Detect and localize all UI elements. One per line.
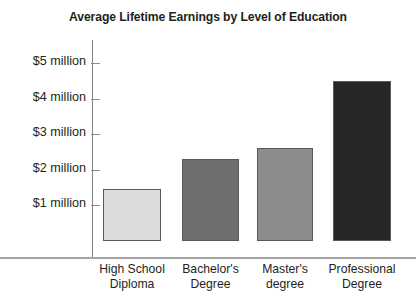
x-axis-baseline <box>0 257 416 259</box>
y-axis-tick-mark <box>91 170 100 171</box>
y-axis-tick-mark <box>91 134 100 135</box>
y-axis-tick-mark <box>91 205 100 206</box>
x-axis-category-label-line: Degree <box>317 277 407 292</box>
bar <box>257 148 313 241</box>
bar <box>333 81 391 241</box>
x-axis-category-label: High SchoolDiploma <box>87 262 177 292</box>
y-axis-tick-mark <box>91 63 100 64</box>
y-axis-tick-mark <box>91 99 100 100</box>
y-axis-tick-label: $2 million <box>2 161 86 175</box>
y-axis-tick-label: $5 million <box>2 54 86 68</box>
chart-title: Average Lifetime Earnings by Level of Ed… <box>0 10 416 24</box>
bar <box>103 189 161 241</box>
y-axis-tick-label: $1 million <box>2 196 86 210</box>
x-axis-category-label-line: Diploma <box>87 277 177 292</box>
y-axis-tick-label: $4 million <box>2 90 86 104</box>
x-axis-category-label-line: Professional <box>317 262 407 277</box>
bar-chart: Average Lifetime Earnings by Level of Ed… <box>0 0 416 306</box>
bar <box>182 159 239 241</box>
x-axis-category-label-line: High School <box>87 262 177 277</box>
y-axis-spine <box>92 40 93 257</box>
plot-area: $1 million$2 million$3 million$4 million… <box>92 40 400 257</box>
y-axis-tick-label: $3 million <box>2 125 86 139</box>
x-axis-category-label: ProfessionalDegree <box>317 262 407 292</box>
